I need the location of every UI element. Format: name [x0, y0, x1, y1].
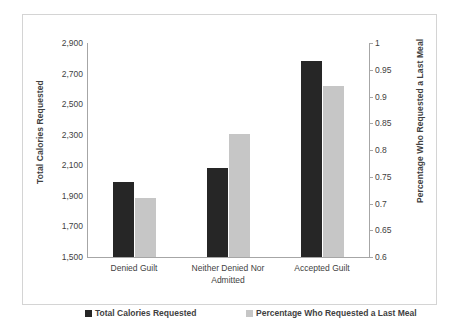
- bar-total-calories[interactable]: [207, 168, 228, 257]
- right-axis-tick-label: 0.6: [375, 252, 409, 262]
- left-axis-tick-labels: 1,5001,7001,9002,1002,3002,5002,7002,900: [45, 43, 83, 258]
- category-axis-line: [87, 257, 370, 258]
- legend-swatch-icon: [85, 310, 92, 317]
- bar-group: [87, 43, 181, 257]
- left-axis-tick-label: 2,300: [49, 130, 83, 140]
- bar-total-calories[interactable]: [301, 61, 322, 257]
- bar-percentage-last-meal[interactable]: [229, 134, 250, 257]
- category-label: Accepted Guilt: [275, 263, 369, 275]
- bar-group: [275, 43, 369, 257]
- category-label: Denied Guilt: [87, 263, 181, 275]
- left-axis-tick-label: 1,500: [49, 252, 83, 262]
- right-axis-tick-label: 0.85: [375, 118, 409, 128]
- right-axis-tick-label: 0.9: [375, 92, 409, 102]
- left-axis-title: Total Calories Requested: [35, 67, 45, 197]
- plot-area: [87, 43, 369, 257]
- right-axis-tick-label: 0.7: [375, 199, 409, 209]
- category-label-line: Accepted Guilt: [275, 263, 369, 275]
- bar-total-calories[interactable]: [113, 182, 134, 257]
- category-label-line: Denied Guilt: [87, 263, 181, 275]
- left-axis-tick-label: 1,700: [49, 221, 83, 231]
- category-label-line: Admitted: [181, 275, 275, 287]
- right-axis-tick-label: 0.75: [375, 172, 409, 182]
- right-axis-tick-labels: 0.60.650.70.750.80.850.90.951: [375, 43, 409, 258]
- bar-percentage-last-meal[interactable]: [135, 198, 156, 257]
- left-axis-tick-label: 2,700: [49, 69, 83, 79]
- category-labels: Denied GuiltNeither Denied NorAdmittedAc…: [87, 263, 370, 299]
- right-axis-tick-label: 0.95: [375, 65, 409, 75]
- left-axis-tick-label: 2,100: [49, 160, 83, 170]
- right-axis-tick-label: 1: [375, 38, 409, 48]
- category-label: Neither Denied NorAdmitted: [181, 263, 275, 286]
- right-axis-tick-label: 0.65: [375, 225, 409, 235]
- left-axis-tick-label: 1,900: [49, 191, 83, 201]
- left-axis-tick-label: 2,500: [49, 99, 83, 109]
- category-label-line: Neither Denied Nor: [181, 263, 275, 275]
- right-axis-title: Percentage Who Requested a Last Meal: [415, 53, 425, 203]
- legend-label: Percentage Who Requested a Last Meal: [256, 308, 417, 318]
- bar-percentage-last-meal[interactable]: [323, 86, 344, 257]
- legend-label: Total Calories Requested: [95, 308, 196, 318]
- bar-group: [181, 43, 275, 257]
- legend-swatch-icon: [246, 310, 253, 317]
- chart-figure: Total Calories Requested Percentage Who …: [22, 14, 437, 305]
- right-axis-tick-label: 0.8: [375, 145, 409, 155]
- legend-item-percentage-last-meal[interactable]: Percentage Who Requested a Last Meal: [246, 308, 417, 318]
- left-axis-tick-label: 2,900: [49, 38, 83, 48]
- legend-item-total-calories[interactable]: Total Calories Requested: [85, 308, 196, 318]
- chart-legend: Total Calories Requested Percentage Who …: [63, 305, 403, 321]
- right-axis-line: [369, 43, 370, 258]
